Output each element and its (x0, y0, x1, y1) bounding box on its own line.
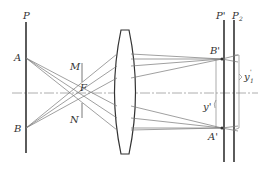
label-p2-sub: 2 (238, 15, 243, 22)
label-m: M (69, 61, 81, 72)
image-point-a-prime (221, 127, 224, 130)
label-n: N (69, 114, 80, 125)
label-a: A (13, 52, 21, 63)
label-b-prime: B' (209, 45, 220, 56)
y1-prime-brace (239, 74, 242, 80)
optical-diagram: P A B M F N P' P 2 B' A' y' y 1 ' (0, 0, 267, 173)
label-y1-prime: y (243, 71, 250, 82)
label-p: P (22, 10, 30, 21)
label-a-prime: A' (207, 131, 218, 142)
label-p-prime: P' (215, 10, 225, 21)
label-p2: P (231, 10, 239, 21)
diagram-canvas: P A B M F N P' P 2 B' A' y' y 1 ' (0, 0, 267, 173)
convex-lens (115, 30, 136, 154)
label-y1-prime-sup: ' (250, 68, 252, 75)
label-f: F (79, 82, 88, 93)
label-y1-prime-sub: 1 (250, 77, 254, 84)
label-b: B (13, 123, 21, 134)
label-y-prime: y' (202, 101, 211, 112)
image-point-b-prime (221, 58, 224, 61)
